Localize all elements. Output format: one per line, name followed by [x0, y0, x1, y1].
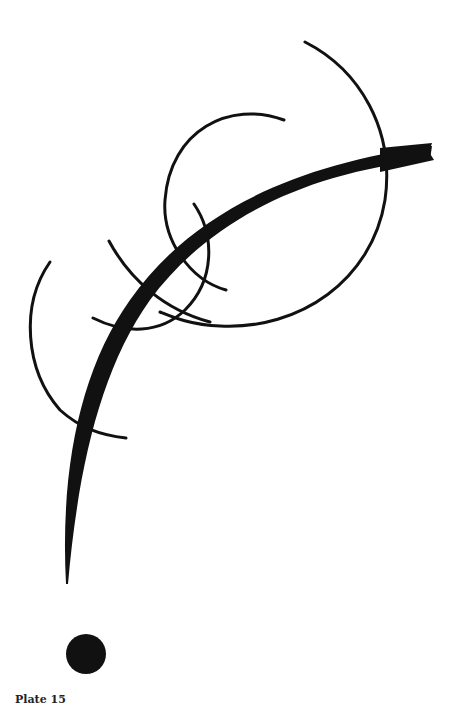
plate-drawing [0, 0, 460, 714]
solid-dot [66, 634, 106, 674]
thick-curve-end [380, 143, 434, 172]
thick-main-curve [65, 146, 432, 584]
plate-caption: Plate 15 [15, 694, 66, 706]
large-circle-arc [160, 42, 387, 326]
small-circle-arc [93, 204, 209, 329]
